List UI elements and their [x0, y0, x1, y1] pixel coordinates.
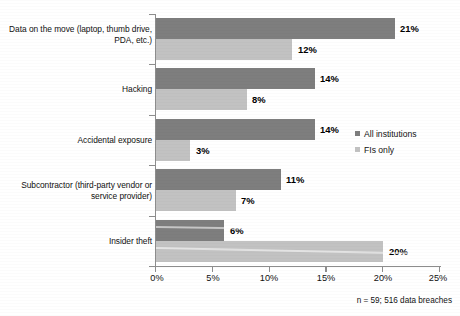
bar-fis-only: [156, 140, 190, 161]
legend-item-fis-only: FIs only: [355, 143, 417, 156]
x-axis-tick: [155, 266, 156, 272]
x-axis-tick-label: 5%: [206, 273, 219, 283]
bar-chart: Data on the move (laptop, thumb drive, P…: [0, 0, 460, 316]
x-axis-tick-label: 10%: [260, 273, 278, 283]
y-axis-tick: [149, 216, 155, 217]
chart-legend: All institutions FIs only: [355, 127, 417, 159]
bar-all-institutions: [156, 119, 315, 140]
bar-fis-only: [156, 89, 247, 110]
x-axis-tick: [212, 266, 213, 272]
bar-value-label: 14%: [320, 119, 339, 140]
bar-all-institutions: [156, 220, 224, 241]
bar-value-label: 21%: [400, 18, 419, 39]
x-axis-tick-label: 0%: [150, 273, 163, 283]
bar-fis-only: [156, 39, 292, 60]
bar-all-institutions: [156, 18, 395, 39]
legend-item-all-institutions: All institutions: [355, 127, 417, 140]
y-axis-tick: [149, 165, 155, 166]
x-axis-tick-label: 25%: [429, 273, 447, 283]
bar-all-institutions: [156, 169, 281, 190]
x-axis-tick: [269, 266, 270, 272]
y-axis-tick: [149, 115, 155, 116]
legend-swatch-icon: [355, 147, 360, 152]
bar-value-label: 20%: [389, 241, 408, 262]
bar-fis-only: [156, 190, 236, 211]
category-label-accidental-exposure: Accidental exposure: [4, 135, 152, 146]
legend-swatch-icon: [355, 131, 360, 136]
x-axis-tick-label: 20%: [374, 273, 392, 283]
bar-value-label: 6%: [230, 220, 244, 241]
x-axis-line: [155, 266, 441, 267]
bar-value-label: 3%: [196, 140, 210, 161]
bar-value-label: 11%: [286, 169, 304, 190]
x-axis-tick: [382, 266, 383, 272]
x-axis-tick: [439, 266, 440, 272]
category-label-insider-theft: Insider theft: [4, 236, 152, 247]
legend-label: All institutions: [364, 129, 417, 139]
legend-label: FIs only: [364, 145, 394, 155]
bar-value-label: 8%: [252, 89, 266, 110]
x-axis-tick-label: 15%: [317, 273, 335, 283]
bar-all-institutions: [156, 68, 315, 89]
y-axis-tick: [149, 14, 155, 15]
category-label-hacking: Hacking: [4, 84, 152, 95]
bar-value-label: 12%: [298, 39, 317, 60]
chart-footnote: n = 59; 516 data breaches: [357, 296, 452, 305]
y-axis-tick: [149, 64, 155, 65]
bar-value-label: 14%: [320, 68, 339, 89]
category-label-subcontractor: Subcontractor (third-party vendor or ser…: [4, 180, 152, 201]
bar-value-label: 7%: [241, 190, 255, 211]
bar-fis-only: [156, 241, 383, 262]
x-axis-tick: [325, 266, 326, 272]
category-label-data-on-the-move: Data on the move (laptop, thumb drive, P…: [4, 24, 152, 45]
